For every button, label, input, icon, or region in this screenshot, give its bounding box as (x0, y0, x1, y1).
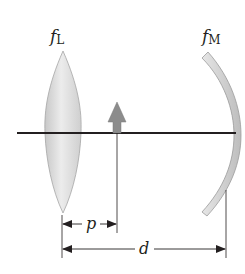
mirror-focal-subscript: M (208, 33, 220, 47)
lens-focal-label: fL (48, 26, 64, 47)
lens-focal-subscript: L (56, 33, 64, 47)
object-arrow-icon (108, 102, 126, 133)
d-label: d (139, 239, 149, 258)
mirror-focal-label: fM (200, 26, 221, 47)
p-label: p (86, 214, 96, 233)
optics-diagram: p d fL fM (0, 0, 245, 274)
